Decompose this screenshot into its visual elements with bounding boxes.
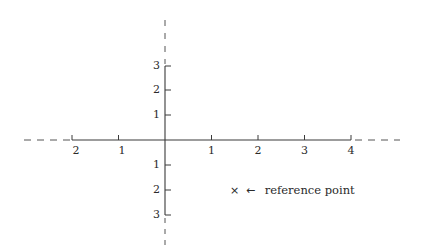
coordinate-diagram: 2 1 1 2 3 4 3 2 1 1 2 3 × ← reference po…	[0, 0, 421, 250]
y-tick-label-neg1: 1	[150, 159, 160, 170]
y-tick-label-neg3: 3	[150, 209, 160, 220]
x-axis-ticks	[72, 135, 351, 140]
reference-point-label: reference point	[265, 183, 355, 197]
x-tick-label-neg1: 1	[119, 145, 126, 156]
x-tick-label-3: 3	[301, 145, 308, 156]
left-arrow-icon: ←	[246, 184, 255, 197]
x-tick-label-4: 4	[348, 145, 355, 156]
x-tick-label-neg2: 2	[73, 145, 80, 156]
axes-graphic	[0, 0, 421, 250]
y-tick-label-neg2: 2	[150, 184, 160, 195]
reference-point-annotation: × ← reference point	[230, 183, 355, 197]
y-tick-label-1: 1	[150, 109, 160, 120]
x-tick-label-1: 1	[208, 145, 215, 156]
y-tick-label-2: 2	[150, 84, 160, 95]
x-tick-label-2: 2	[255, 145, 262, 156]
y-tick-label-3: 3	[150, 60, 160, 71]
reference-point-marker-icon: ×	[230, 184, 239, 197]
